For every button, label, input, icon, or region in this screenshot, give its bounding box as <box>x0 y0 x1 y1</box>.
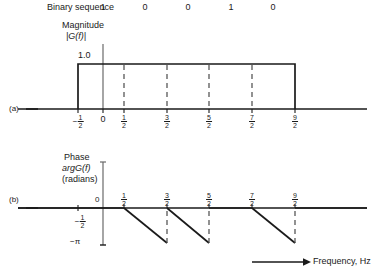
figure-binary-sequence-spectrum: Binary sequence 1 0 0 1 0 Magnitude |G(f… <box>0 0 385 278</box>
phase-segment-ramp-3 <box>252 208 295 243</box>
phase-segment-ramp-2 <box>167 208 209 243</box>
magnitude-rect-curve <box>78 64 295 109</box>
frequency-arrow-head <box>303 258 311 266</box>
phase-segment-ramp-1 <box>124 208 167 243</box>
figure-vector-layer <box>0 0 385 278</box>
